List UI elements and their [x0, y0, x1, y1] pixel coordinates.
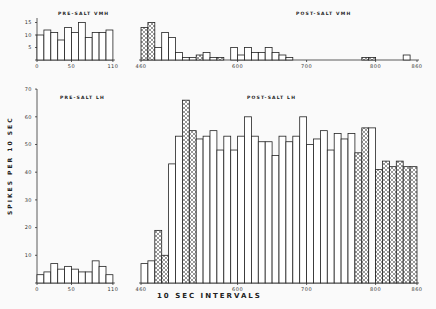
bar-hatched [155, 230, 162, 283]
bar [403, 55, 410, 60]
bar-hatched [383, 161, 390, 283]
bar [85, 38, 92, 61]
bar [369, 128, 376, 283]
bar-hatched [162, 255, 169, 283]
bar [320, 131, 327, 283]
bar [51, 33, 58, 61]
panel-post-lh: 460600700800860POST-SALT LH [135, 95, 422, 292]
bar [334, 133, 341, 283]
x-tick-label: 460 [135, 63, 146, 69]
bar [58, 269, 65, 283]
bar [176, 136, 183, 283]
x-tick-label: 460 [135, 286, 146, 292]
y-tick-label: 60 [25, 114, 32, 120]
x-tick-label: 50 [68, 63, 75, 69]
figure: 51015050110PRE-SALT VMH460600700800860PO… [0, 0, 436, 309]
y-tick-label: 20 [25, 224, 32, 230]
bar-hatched [196, 55, 203, 60]
bar [72, 33, 79, 61]
bar [272, 53, 279, 61]
x-tick-label: 700 [301, 286, 312, 292]
x-tick-label: 860 [411, 286, 422, 292]
bar-hatched [396, 161, 403, 283]
bar [348, 133, 355, 283]
panel-post-vmh: 460600700800860POST-SALT VMH [135, 11, 422, 69]
bar [99, 266, 106, 283]
x-tick-label: 860 [411, 63, 422, 69]
bar [258, 142, 265, 283]
y-tick-label: 50 [25, 141, 32, 147]
bar [162, 33, 169, 61]
bar [300, 117, 307, 283]
panel-title: POST-SALT VMH [296, 11, 351, 16]
y-tick-label: 10 [25, 252, 32, 258]
bar [286, 58, 293, 61]
bar [307, 145, 314, 284]
bar [92, 33, 99, 61]
bar-hatched [141, 28, 148, 61]
bar [106, 275, 113, 283]
bar [141, 264, 148, 283]
bar [155, 48, 162, 61]
bar [196, 139, 203, 283]
x-tick-label: 700 [301, 63, 312, 69]
x-tick-label: 0 [35, 63, 39, 69]
y-axis-label: SPIKES PER 10 SEC [6, 116, 13, 215]
bar-hatched [148, 23, 155, 61]
bar [203, 136, 210, 283]
bar [78, 23, 85, 61]
bar [65, 266, 72, 283]
bar-hatched [410, 167, 417, 283]
bar [203, 53, 210, 61]
bar [44, 272, 51, 283]
bar [85, 272, 92, 283]
panel-pre-vmh: 51015050110PRE-SALT VMH [25, 11, 119, 69]
bar [245, 48, 252, 61]
bar [251, 53, 258, 61]
bar [231, 150, 238, 283]
panel-pre-lh: 10203040506070050110PRE-SALT LH [25, 86, 119, 292]
bar [189, 58, 196, 61]
panel-title: PRE-SALT LH [60, 95, 105, 100]
bar [279, 136, 286, 283]
bar [238, 136, 245, 283]
bar [65, 28, 72, 61]
bar [176, 53, 183, 61]
bar [341, 139, 348, 283]
y-tick-label: 40 [25, 169, 32, 175]
y-tick-label: 5 [28, 44, 32, 50]
bar-hatched [182, 100, 189, 283]
bar [210, 58, 217, 61]
bar [169, 164, 176, 283]
x-tick-label: 50 [68, 286, 75, 292]
bar-hatched [355, 153, 362, 283]
x-tick-label: 110 [107, 63, 118, 69]
bar [286, 142, 293, 283]
x-tick-label: 800 [370, 63, 381, 69]
bar [327, 150, 334, 283]
x-axis-label: 10 SEC INTERVALS [157, 292, 262, 300]
y-tick-label: 70 [25, 86, 32, 92]
bar [169, 38, 176, 61]
bar [265, 48, 272, 61]
bar [258, 53, 265, 61]
x-tick-label: 800 [370, 286, 381, 292]
x-tick-label: 600 [232, 63, 243, 69]
bar [44, 30, 51, 60]
bar-hatched [403, 167, 410, 283]
bar [148, 261, 155, 283]
bar-hatched [362, 58, 369, 61]
bar [51, 264, 58, 283]
bar [58, 40, 65, 60]
bar-hatched [389, 167, 396, 283]
bar [238, 55, 245, 60]
bar [217, 150, 224, 283]
bar [99, 33, 106, 61]
y-tick-label: 10 [25, 32, 32, 38]
bar [251, 136, 258, 283]
bar [37, 275, 44, 283]
bar [78, 272, 85, 283]
bar [293, 136, 300, 283]
bar-hatched [189, 131, 196, 283]
bar [72, 269, 79, 283]
